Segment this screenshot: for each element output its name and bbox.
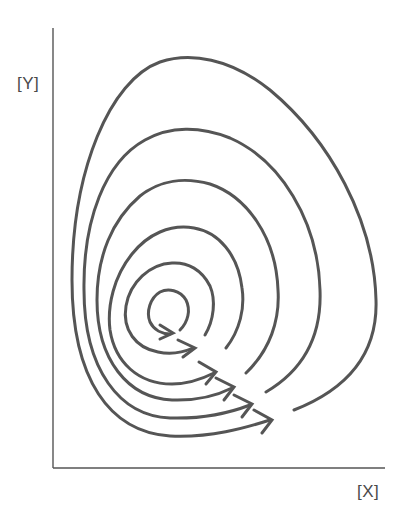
- y-axis-label: [Y]: [17, 74, 39, 94]
- trajectory-loop-6: [148, 290, 188, 334]
- trajectory-loop-5: [125, 263, 213, 353]
- trajectory-loop-3: [97, 180, 278, 400]
- arrowhead-5: [178, 340, 195, 357]
- arrowhead-3: [216, 378, 234, 400]
- trajectory-loop-4: [109, 227, 243, 384]
- x-axis-label: [X]: [357, 482, 379, 502]
- arrowhead-4: [199, 362, 216, 384]
- phase-portrait-diagram: [0, 0, 403, 517]
